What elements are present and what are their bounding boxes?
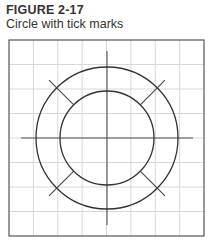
circle-diagram <box>0 0 213 252</box>
axis-lines <box>21 51 193 225</box>
